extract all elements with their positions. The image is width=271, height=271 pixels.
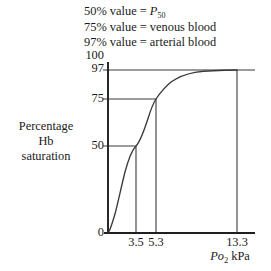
dissociation-curve-figure: 50% value = P50 75% value = venous blood… xyxy=(0,0,271,271)
plot-area xyxy=(0,0,271,271)
dissociation-curve-line xyxy=(109,70,238,233)
